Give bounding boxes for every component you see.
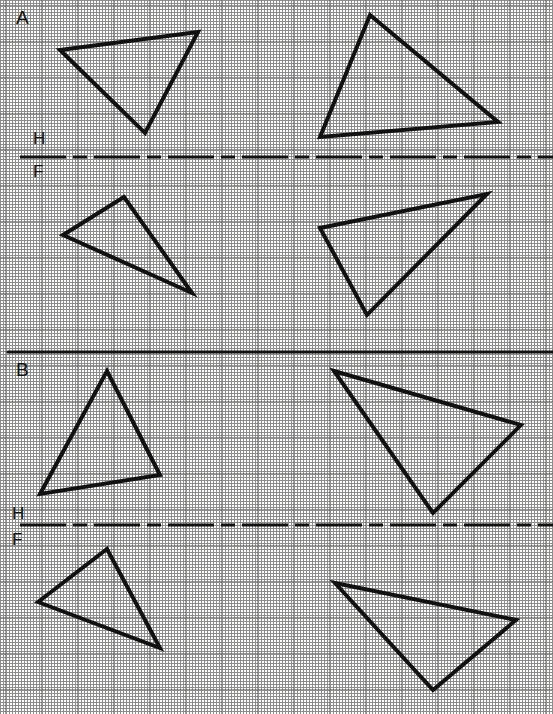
orthographic-projection-drawing [0, 0, 553, 714]
problem-b-top-view-left [40, 371, 160, 494]
problem-a-frontal-plane-label: F [33, 163, 43, 180]
problem-b-front-view-left [38, 549, 160, 648]
problem-label-b: B [16, 360, 29, 379]
worksheet-page: A H F B H F [0, 0, 553, 714]
problem-a-top-view-left [60, 32, 198, 133]
problem-b-horizontal-plane-label: H [12, 505, 24, 522]
problem-b-frontal-plane-label: F [12, 531, 22, 548]
problem-b-front-view-right [335, 583, 516, 690]
problem-label-a: A [16, 8, 29, 27]
problem-b-top-view-right [334, 371, 521, 513]
problem-a-horizontal-plane-label: H [33, 130, 45, 147]
problem-a-top-view-right [320, 15, 498, 137]
problem-a-front-view-left [63, 197, 192, 293]
problem-a-front-view-right [320, 194, 487, 315]
